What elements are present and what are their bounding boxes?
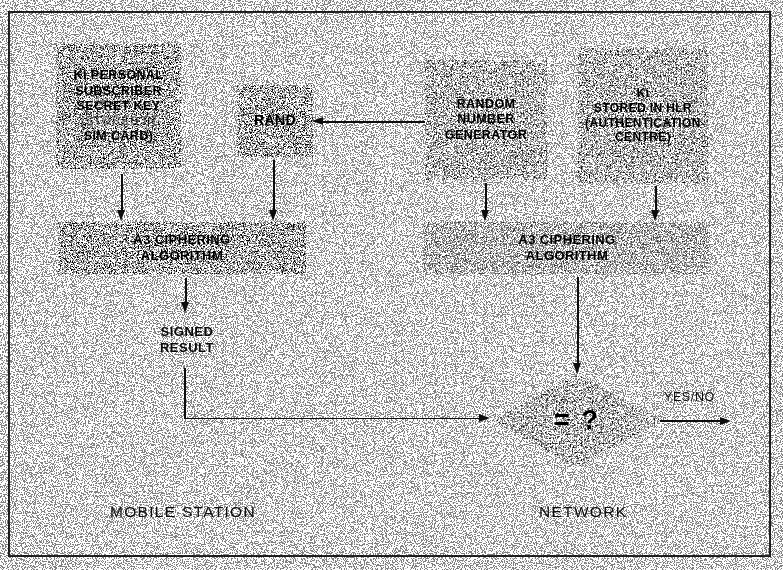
connector-compare-to-result [660, 420, 723, 422]
node-line: ALGORITHM [133, 248, 230, 264]
connector-ki-sim-to-a3 [121, 174, 123, 212]
arrow-head-icon [573, 363, 581, 374]
node-line: SIGNED [141, 324, 233, 340]
connector-a3-to-signed-result [185, 278, 187, 304]
arrow-head-icon [481, 210, 489, 221]
node-line: Ki [585, 86, 701, 101]
node-line: GENERATOR [445, 128, 527, 143]
connector-rand-to-a3 [273, 160, 275, 212]
connector-a3-network-to-compare [577, 277, 579, 365]
zone-label-network: NETWORK [539, 503, 627, 521]
node-line: STORED IN HLR [585, 101, 701, 116]
node-line: A3 CIPHERING [133, 232, 230, 248]
node-line: A3 CIPHERING [518, 232, 615, 248]
arrow-head-icon [720, 417, 731, 425]
connector-signed-result-down [184, 368, 186, 419]
node-line: NUMBER [445, 112, 527, 127]
node-random-number-generator: RANDOM NUMBER GENERATOR [425, 60, 547, 180]
node-line: (AUTHENTICATION [585, 116, 701, 131]
node-line: RESULT [141, 340, 233, 356]
node-ki-hlr-auc: Ki STORED IN HLR (AUTHENTICATION CENTRE) [578, 48, 708, 183]
arrow-head-icon [181, 302, 189, 313]
node-line: Ki PERSONAL [74, 68, 164, 83]
arrow-head-icon [312, 117, 323, 125]
node-line: (STORED IN [74, 114, 164, 129]
node-line: RANDOM [445, 97, 527, 112]
node-line: SUBSCRIBER [74, 84, 164, 99]
node-line: SECRET KEY [74, 99, 164, 114]
zone-label-mobile-station: MOBILE STATION [110, 503, 256, 521]
node-ki-sim-card: Ki PERSONAL SUBSCRIBER SECRET KEY (STORE… [56, 44, 181, 169]
edge-label-yes-no: YES/NO [664, 390, 715, 404]
node-compare-decision: = ? [492, 374, 662, 468]
arrow-head-icon [651, 210, 659, 221]
node-signed-result: SIGNED RESULT [141, 324, 233, 356]
node-a3-ciphering-algorithm-mobile: A3 CIPHERING ALGORITHM [58, 222, 306, 274]
node-line: SIM CARD) [74, 129, 164, 144]
arrow-head-icon [117, 210, 125, 221]
node-rand: RAND [237, 85, 313, 157]
connector-ki-hlr-to-a3-network [655, 186, 657, 212]
arrow-head-icon [479, 414, 490, 422]
arrow-head-icon [269, 210, 277, 221]
connector-rng-to-rand [322, 121, 425, 123]
node-line: ALGORITHM [518, 248, 615, 264]
node-line: CENTRE) [585, 130, 701, 145]
node-line: RAND [254, 112, 296, 129]
scanned-diagram-page: Ki PERSONAL SUBSCRIBER SECRET KEY (STORE… [0, 0, 783, 570]
compare-symbol: = ? [554, 405, 600, 436]
node-a3-ciphering-algorithm-network: A3 CIPHERING ALGORITHM [424, 222, 710, 274]
connector-rng-to-a3-network [485, 183, 487, 212]
connector-signed-result-to-compare [184, 418, 482, 420]
